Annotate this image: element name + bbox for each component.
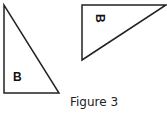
right-triangle-label: B [93,14,107,23]
figure-caption: Figure 3 [64,95,124,109]
left-triangle-label: B [13,70,22,84]
